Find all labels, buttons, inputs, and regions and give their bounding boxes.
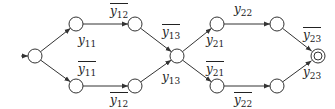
state-s3 [128, 17, 142, 31]
label-subscript: 23 [310, 71, 321, 81]
label-subscript: 12 [117, 99, 128, 109]
edge-label: y11 [78, 61, 96, 75]
edge-label: y13 [162, 71, 180, 83]
transition-s0-s2 [41, 60, 71, 82]
edge-label: y21 [206, 61, 224, 75]
label-base: y [303, 28, 310, 42]
edge-label: y12 [110, 92, 128, 106]
state-s10 [311, 49, 325, 63]
label-base: y [110, 4, 117, 18]
label-base: y [162, 70, 169, 84]
edge-label: y21 [206, 34, 224, 46]
edge-label: y22 [234, 92, 252, 106]
label-base: y [78, 62, 85, 76]
label-subscript: 21 [213, 68, 224, 78]
edge-label: y11 [78, 34, 96, 46]
label-subscript: 13 [169, 31, 180, 41]
edge-label: y22 [234, 3, 252, 15]
label-base: y [234, 93, 241, 107]
label-base: y [206, 33, 213, 47]
state-s0 [28, 49, 42, 63]
label-base: y [110, 93, 117, 107]
label-subscript: 11 [85, 39, 96, 49]
label-subscript: 11 [85, 68, 96, 78]
label-subscript: 22 [241, 99, 252, 109]
state-s9 [270, 79, 284, 93]
state-s1 [69, 17, 83, 31]
label-base: y [78, 33, 85, 47]
state-s7 [210, 79, 224, 93]
edge-label: y23 [303, 66, 321, 78]
label-base: y [162, 25, 169, 39]
edge-label: y23 [303, 27, 321, 41]
transition-s0-s1 [41, 28, 71, 51]
state-s2 [69, 79, 83, 93]
state-s8 [270, 17, 284, 31]
label-subscript: 22 [241, 8, 252, 18]
label-subscript: 21 [213, 39, 224, 49]
label-base: y [303, 65, 310, 79]
edge-label: y12 [110, 3, 128, 17]
state-s4 [128, 79, 142, 93]
state-s5 [170, 49, 184, 63]
label-subscript: 23 [310, 34, 321, 44]
label-base: y [206, 62, 213, 76]
label-base: y [234, 2, 241, 16]
automaton-diagram: y12y11y11y12y13y13y22y21y21y22y23y23 [0, 0, 335, 109]
automaton-graph [0, 0, 335, 109]
label-subscript: 13 [169, 76, 180, 86]
label-subscript: 12 [117, 10, 128, 20]
state-s6 [210, 17, 224, 31]
edge-label: y13 [162, 24, 180, 38]
